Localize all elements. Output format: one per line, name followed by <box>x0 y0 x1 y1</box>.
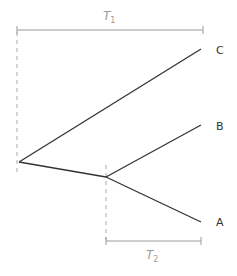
branch-b <box>106 125 201 177</box>
branch-root-node <box>19 162 106 177</box>
taxon-label-a: A <box>216 216 224 229</box>
branch-c <box>19 49 201 162</box>
taxon-label-c: C <box>216 44 224 57</box>
t2-bracket <box>106 237 201 245</box>
tree-diagram: T1 C B A T2 <box>0 0 237 276</box>
taxon-label-b: B <box>216 120 224 133</box>
t1-bracket <box>17 26 203 34</box>
t2-label: T2 <box>146 248 158 264</box>
tree-branches <box>19 49 201 222</box>
branch-a <box>106 177 201 222</box>
t1-label: T1 <box>103 9 115 25</box>
